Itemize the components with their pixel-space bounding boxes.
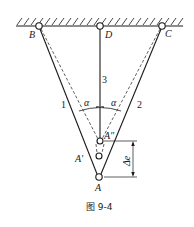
- joint-A-prime: [96, 153, 102, 159]
- label-alpha-left: α: [84, 97, 90, 108]
- label-bar-3: 3: [102, 74, 107, 85]
- label-bar-2: 2: [137, 99, 142, 110]
- label-delta-e: Δe: [121, 155, 132, 167]
- joint-A-double-prime: [97, 138, 103, 144]
- label-A-prime: A′: [74, 153, 84, 164]
- label-C: C: [165, 28, 172, 39]
- label-alpha-right: α: [111, 97, 117, 108]
- label-bar-1: 1: [61, 99, 66, 110]
- joint-D: [97, 23, 103, 29]
- joint-B: [36, 23, 42, 29]
- bar-2: [101, 29, 161, 174]
- label-B: B: [29, 29, 35, 40]
- label-D: D: [104, 29, 113, 40]
- label-A-double-prime: A″: [103, 130, 115, 141]
- bars: [40, 29, 161, 174]
- label-A: A: [94, 182, 102, 193]
- joint-A: [96, 174, 102, 180]
- figure-caption: 图 9-4: [86, 202, 113, 212]
- truss-diagram: B D C 3 1 2 α α A″ A′ A Δe 图 9-4: [0, 0, 194, 227]
